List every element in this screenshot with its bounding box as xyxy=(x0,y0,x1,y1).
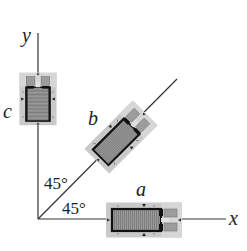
y-axis-label: y xyxy=(20,24,31,47)
gauge-a-label: a xyxy=(136,178,146,200)
angle-label-lower: 45° xyxy=(62,199,86,218)
x-axis-label: x xyxy=(228,207,238,229)
gauge-b-label: b xyxy=(88,107,98,129)
gauge-c xyxy=(19,73,56,125)
gauge-c-label: c xyxy=(3,100,12,122)
gauge-a xyxy=(106,203,182,238)
strain-gauge-rosette-diagram: y x c b a 45° 45° xyxy=(0,0,247,251)
angle-label-upper: 45° xyxy=(44,174,68,193)
